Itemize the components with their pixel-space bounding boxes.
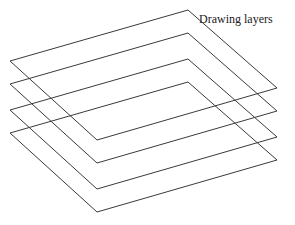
- drawing-layers-diagram: Drawing layers: [0, 0, 295, 225]
- diagram-label: Drawing layers: [199, 12, 273, 27]
- layers-canvas: [0, 0, 295, 225]
